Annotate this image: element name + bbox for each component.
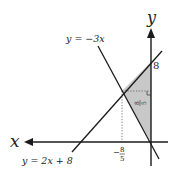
diagram-canvas: y x y = −3x y = 2x + 8 8 − 8 5 8 5: [0, 0, 172, 172]
y-intercept-label: 8: [153, 60, 159, 71]
x-frac-den: 5: [120, 155, 124, 163]
height-frac-num: 8: [133, 101, 140, 105]
x-axis-arrow-icon: [24, 138, 33, 146]
y-axis-label: y: [146, 8, 157, 27]
height-frac-den: 5: [140, 101, 147, 105]
x-frac-num: 8: [120, 146, 124, 154]
label-y-neg-3x: y = −3x: [65, 33, 105, 44]
y-axis-arrow-icon: [147, 28, 155, 38]
label-y-2x-plus-8: y = 2x + 8: [21, 155, 73, 166]
x-axis-label: x: [10, 131, 20, 151]
neg-sign: −: [113, 148, 120, 157]
